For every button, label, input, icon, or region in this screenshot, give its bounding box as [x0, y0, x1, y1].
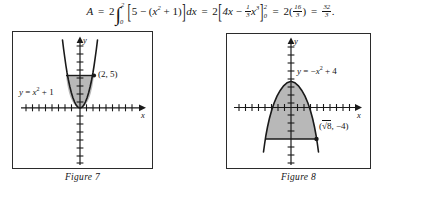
figure-7-caption: Figure 7	[12, 172, 153, 182]
figure-8-y-axis-label: y	[294, 36, 298, 46]
final-answer-numerator: 32	[322, 4, 331, 11]
integrand-x-exponent: 2	[157, 4, 160, 11]
bracket-close-2: ]	[260, 1, 264, 22]
differential-dx: dx	[186, 5, 196, 17]
antiderivative-one-third: 13	[245, 4, 250, 19]
figure-8-panel: y x y = −x2 + 4 (√8, −4)	[226, 33, 371, 169]
equation-period: .	[332, 5, 335, 17]
figure-8-label-four: 4	[332, 66, 337, 76]
integrand-five: 5	[132, 5, 138, 17]
figure-8-label-equals: =	[303, 66, 308, 76]
integral-upper-limit: 2	[121, 2, 124, 9]
evaluation-lower-limit: 0	[264, 13, 267, 20]
figure-8-label-exponent: 2	[320, 65, 323, 71]
one-third-numerator: 1	[245, 4, 250, 11]
figure-8-point-marker	[314, 137, 318, 141]
figure-8-caption: Figure 8	[226, 172, 371, 182]
integrand-plus: +	[163, 5, 169, 17]
evaluation-upper-limit: 2	[264, 4, 267, 11]
figure-8-point-close-paren: )	[346, 121, 349, 131]
figure-7-label-y: y	[19, 87, 23, 97]
equation-line: A = 2∫20[5 − (x2 + 1)]dx = 2[4x − 13x3]2…	[0, 4, 421, 21]
equation-lhs: A	[87, 5, 94, 17]
figure-7-point-marker	[92, 73, 96, 77]
integral-limits: 20	[121, 7, 126, 21]
result-open-paren: (	[289, 5, 293, 17]
equation-equals-1: =	[96, 5, 106, 17]
result-step-denominator: 3	[293, 11, 302, 19]
antiderivative-term1: 4x	[223, 5, 233, 17]
integrand-minus: −	[140, 5, 146, 17]
figure-7-label-one: 1	[49, 87, 54, 97]
figure-8-x-axis-label: x	[357, 110, 361, 120]
bracket-close-1: ]	[182, 1, 186, 22]
equation-outer-coefficient: 2	[109, 5, 115, 17]
antiderivative-minus: −	[236, 5, 242, 17]
antiderivative-coefficient: 2	[212, 5, 218, 17]
figure-8-point-label: (√8, −4)	[319, 121, 349, 131]
result-step-fraction: 163	[293, 4, 302, 19]
integral-symbol-group: ∫20	[115, 7, 125, 21]
final-answer-denominator: 3	[322, 11, 331, 19]
figure-7-label-plus: +	[42, 87, 47, 97]
figure-7-point-label: (2, 5)	[98, 69, 118, 79]
one-third-denominator: 3	[245, 11, 250, 19]
evaluation-limits: 20	[264, 7, 268, 18]
equation-equals-3: =	[271, 5, 281, 17]
result-close-paren: )	[303, 5, 307, 17]
figure-8-curve-label: y = −x2 + 4	[297, 66, 337, 76]
bracket-open-2: [	[218, 1, 222, 22]
figure-7-panel: y x y = x2 + 1 (2, 5)	[12, 31, 153, 169]
integrand-close-paren: )	[178, 5, 182, 17]
antiderivative-term2-exponent: 3	[256, 4, 259, 11]
figure-7-label-exponent: 2	[37, 86, 40, 92]
bracket-open-1: [	[127, 1, 131, 22]
integral-lower-limit: 0	[120, 19, 123, 26]
figure-8-point-comma: ,	[331, 121, 333, 131]
figure-7-graph	[13, 32, 152, 168]
final-answer-fraction: 323	[322, 4, 331, 19]
figure-8-graph	[227, 34, 370, 168]
equation-equals-2: =	[199, 5, 209, 17]
equation-equals-4: =	[309, 5, 319, 17]
figure-7-y-axis-label: y	[83, 35, 87, 45]
figure-7-curve-label: y = x2 + 1	[19, 87, 54, 97]
result-step-numerator: 16	[293, 4, 302, 11]
figure-7-label-equals: =	[25, 87, 30, 97]
figure-8-label-plus: +	[325, 66, 330, 76]
figure-8-label-y: y	[297, 66, 301, 76]
figure-7-x-axis-label: x	[141, 110, 145, 120]
